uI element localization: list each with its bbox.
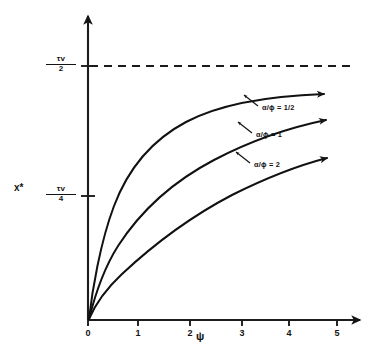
curve-alpha-phi-half [89, 94, 324, 319]
x-tick-label-5: 5 [334, 328, 339, 338]
y-axis-title: x* [14, 182, 23, 193]
y-tick-label-tau-v-over-4: τv 4 [46, 185, 76, 204]
x-tick-label-2: 2 [187, 328, 192, 338]
x-axis-title-text: ψ [196, 330, 204, 342]
figure-container: 0 1 2 3 4 5 α/ϕ = 1/2 α/ϕ = 1 α/ϕ = 2 τv… [0, 0, 375, 355]
x-tick-label-0: 0 [85, 328, 90, 338]
curve-alpha-phi-one [89, 120, 326, 319]
leader-line-alpha-phi-two [236, 152, 250, 163]
y-tick-denominator-4: 4 [46, 195, 76, 204]
x-tick-label-1: 1 [135, 328, 140, 338]
annotation-alpha-phi-one: α/ϕ = 1 [256, 130, 282, 139]
x-tick-label-4: 4 [286, 328, 291, 338]
y-tick-label-tau-v-over-2: τv 2 [46, 55, 76, 74]
y-axis-title-text: x* [14, 182, 23, 193]
y-tick-numerator-2: τv [46, 55, 76, 65]
annotation-alpha-phi-half: α/ϕ = 1/2 [262, 103, 295, 112]
x-axis-title: ψ [196, 330, 204, 342]
annotation-alpha-phi-two: α/ϕ = 2 [254, 160, 280, 169]
y-tick-numerator-4: τv [46, 185, 76, 195]
y-tick-denominator-2: 2 [46, 65, 76, 74]
x-tick-label-3: 3 [239, 328, 244, 338]
leader-line-alpha-phi-one [238, 122, 252, 133]
